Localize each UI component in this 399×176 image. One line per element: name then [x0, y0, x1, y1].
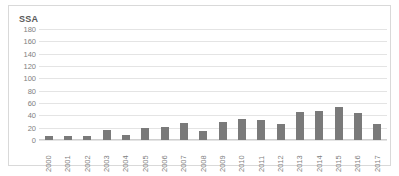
bar-2011 — [257, 120, 265, 140]
bar-2002 — [83, 136, 91, 140]
x-axis-tick-label: 2005 — [141, 142, 150, 172]
plot-area: 180160140120100806040200 — [39, 29, 387, 140]
x-label-slot: 2016 — [348, 142, 367, 172]
bar-slot — [194, 29, 213, 140]
y-axis-tick-label: 180 — [23, 25, 36, 34]
x-label-slot: 2009 — [213, 142, 232, 172]
x-label-slot: 2005 — [136, 142, 155, 172]
x-axis-tick-label: 2006 — [160, 142, 169, 172]
bar-2016 — [354, 113, 362, 140]
chart-title: SSA — [19, 14, 38, 24]
x-label-slot: 2015 — [329, 142, 348, 172]
x-label-slot: 2017 — [368, 142, 387, 172]
y-axis-tick-label: 0 — [32, 136, 36, 145]
x-label-slot: 2012 — [271, 142, 290, 172]
bar-2004 — [122, 135, 130, 140]
bar-slot — [310, 29, 329, 140]
x-label-slot: 2013 — [290, 142, 309, 172]
bar-slot — [213, 29, 232, 140]
x-axis-tick-label: 2008 — [199, 142, 208, 172]
bar-2013 — [296, 112, 304, 140]
bar-slot — [116, 29, 135, 140]
bar-slot — [97, 29, 116, 140]
bar-slot — [329, 29, 348, 140]
chart-frame: SSA 180160140120100806040200 20002001200… — [8, 5, 391, 166]
bar-slot — [368, 29, 387, 140]
y-axis-tick-label: 20 — [28, 123, 36, 132]
bar-2012 — [277, 124, 285, 140]
y-axis-tick-label: 40 — [28, 111, 36, 120]
bar-2014 — [315, 111, 323, 140]
bar-slot — [58, 29, 77, 140]
bar-slot — [155, 29, 174, 140]
x-axis-tick-label: 2002 — [83, 142, 92, 172]
x-axis-tick-label: 2016 — [353, 142, 362, 172]
bar-slot — [78, 29, 97, 140]
x-label-slot: 2014 — [310, 142, 329, 172]
bar-slot — [174, 29, 193, 140]
bar-slot — [136, 29, 155, 140]
x-axis-tick-label: 2007 — [179, 142, 188, 172]
bar-slot — [232, 29, 251, 140]
x-axis-tick-label: 2012 — [276, 142, 285, 172]
x-axis-tick-label: 2013 — [295, 142, 304, 172]
bar-2000 — [45, 136, 53, 140]
x-label-slot: 2002 — [78, 142, 97, 172]
x-axis-tick-labels: 2000200120022003200420052006200720082009… — [39, 142, 387, 172]
x-axis-tick-label: 2014 — [315, 142, 324, 172]
bar-2017 — [373, 124, 381, 140]
x-axis-tick-label: 2017 — [373, 142, 382, 172]
x-label-slot: 2004 — [116, 142, 135, 172]
chart-screenshot: SSA 180160140120100806040200 20002001200… — [0, 0, 399, 176]
y-axis-tick-label: 100 — [23, 74, 36, 83]
x-axis-tick-label: 2000 — [44, 142, 53, 172]
bar-2003 — [103, 130, 111, 140]
bar-slot — [252, 29, 271, 140]
y-axis-tick-label: 160 — [23, 37, 36, 46]
y-axis-tick-label: 120 — [23, 61, 36, 70]
bar-2001 — [64, 136, 72, 140]
bar-2005 — [141, 128, 149, 140]
bar-series — [39, 29, 387, 140]
x-label-slot: 2011 — [252, 142, 271, 172]
x-axis-tick-label: 2010 — [237, 142, 246, 172]
bar-2006 — [161, 127, 169, 140]
gridline: 0 — [39, 140, 387, 141]
bar-2008 — [199, 131, 207, 140]
x-label-slot: 2007 — [174, 142, 193, 172]
y-axis-tick-label: 140 — [23, 49, 36, 58]
x-axis-tick-label: 2009 — [218, 142, 227, 172]
bar-slot — [348, 29, 367, 140]
y-axis-tick-label: 60 — [28, 98, 36, 107]
y-axis-tick-label: 80 — [28, 86, 36, 95]
x-axis-tick-label: 2003 — [102, 142, 111, 172]
x-axis-tick-label: 2001 — [63, 142, 72, 172]
x-label-slot: 2003 — [97, 142, 116, 172]
bar-slot — [290, 29, 309, 140]
x-label-slot: 2000 — [39, 142, 58, 172]
x-label-slot: 2010 — [232, 142, 251, 172]
x-axis-tick-label: 2004 — [121, 142, 130, 172]
bar-slot — [271, 29, 290, 140]
x-label-slot: 2001 — [58, 142, 77, 172]
x-label-slot: 2008 — [194, 142, 213, 172]
bar-2010 — [238, 119, 246, 140]
x-axis-tick-label: 2015 — [334, 142, 343, 172]
x-axis-tick-label: 2011 — [257, 142, 266, 172]
x-label-slot: 2006 — [155, 142, 174, 172]
bar-2009 — [219, 122, 227, 140]
bar-slot — [39, 29, 58, 140]
bar-2007 — [180, 123, 188, 140]
bar-2015 — [335, 107, 343, 140]
